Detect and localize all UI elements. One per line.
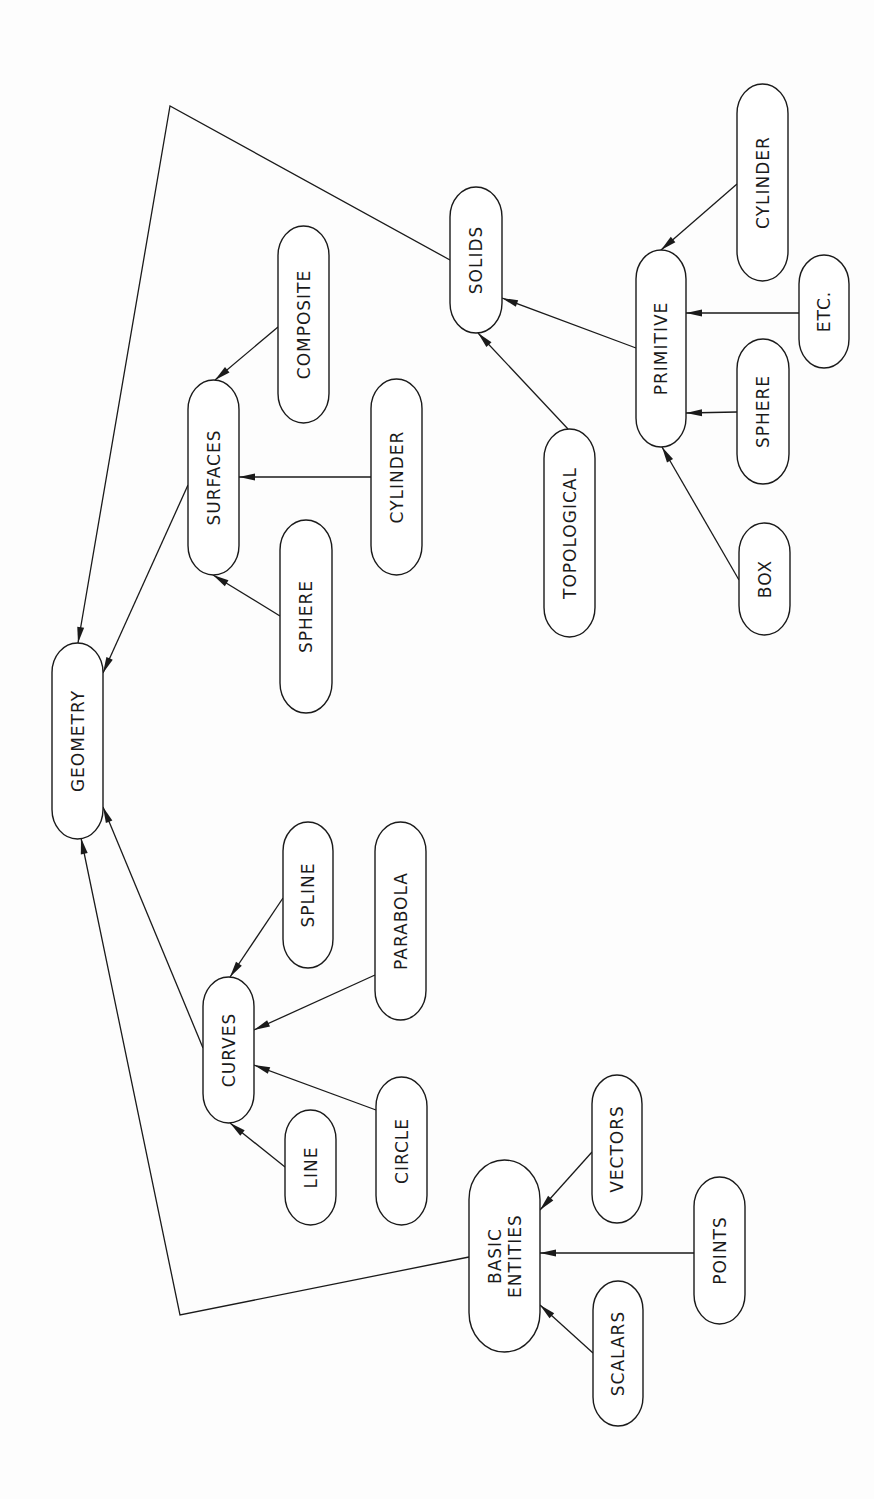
arrowhead-icon <box>230 962 242 977</box>
arrowhead-icon <box>81 838 88 854</box>
node-curves: CURVES <box>203 977 254 1123</box>
edge-topological-to-solids <box>478 333 568 429</box>
node-etc: ETC. <box>799 255 849 368</box>
edge-line <box>103 807 203 1048</box>
arrowhead-icon <box>254 1065 270 1074</box>
node-points: POINTS <box>694 1177 745 1324</box>
node-label: CIRCLE <box>392 1118 412 1184</box>
node-spline: SPLINE <box>283 822 333 968</box>
node-label: POINTS <box>710 1216 730 1285</box>
edge-vectors-to-basic_entities <box>540 1152 592 1210</box>
arrowhead-icon <box>502 298 518 307</box>
edge-primitive-to-solids <box>502 298 636 348</box>
edge-line <box>478 333 568 429</box>
node-line: LINE <box>285 1110 336 1225</box>
node-solids: SOLIDS <box>450 187 502 333</box>
arrowhead-icon <box>239 474 255 481</box>
arrowhead-icon <box>686 310 702 317</box>
arrowhead-icon <box>103 657 113 673</box>
arrowhead-icon <box>540 1250 556 1257</box>
node-surfaces: SURFACES <box>188 380 239 575</box>
node-label: TOPOLOGICAL <box>560 467 580 600</box>
node-circle: CIRCLE <box>376 1077 427 1225</box>
edge-spline-to-curves <box>230 898 283 977</box>
node-label: ETC. <box>814 291 834 332</box>
node-label: VECTORS <box>607 1105 627 1193</box>
edge-line <box>254 1065 376 1110</box>
edge-composite-to-surfaces <box>215 327 278 380</box>
arrowhead-icon <box>686 409 702 416</box>
node-box: BOX <box>739 523 790 635</box>
geometry-hierarchy-diagram: GEOMETRYSURFACESCOMPOSITECYLINDERSPHERES… <box>0 0 874 1499</box>
node-label: COMPOSITE <box>294 270 314 379</box>
node-cylinder-prim: CYLINDER <box>737 84 788 281</box>
node-label: SPLINE <box>298 863 318 928</box>
node-scalars: SCALARS <box>593 1281 643 1426</box>
node-composite: COMPOSITE <box>278 226 329 423</box>
edge-line-to-curves <box>230 1123 285 1167</box>
edge-sphere_prim-to-primitive <box>686 409 737 416</box>
edge-box-to-primitive <box>662 447 739 580</box>
node-topological: TOPOLOGICAL <box>544 429 595 637</box>
node-label: CURVES <box>219 1013 239 1087</box>
node-primitive: PRIMITIVE <box>636 250 686 447</box>
edges-layer <box>77 106 799 1353</box>
node-label: SCALARS <box>608 1311 628 1396</box>
edge-scalars-to-basic_entities <box>540 1305 593 1353</box>
node-label: SPHERE <box>753 375 773 448</box>
node-label: BOX <box>755 560 775 598</box>
edge-parabola-to-curves <box>254 975 375 1030</box>
node-label: SPHERE <box>296 580 316 653</box>
arrowhead-icon <box>254 1020 270 1030</box>
edge-line <box>502 298 636 348</box>
node-label: LINE <box>301 1147 321 1189</box>
node-cylinder-surf: CYLINDER <box>371 379 422 575</box>
edge-points-to-basic_entities <box>540 1250 694 1257</box>
arrowhead-icon <box>103 807 112 823</box>
nodes-layer: GEOMETRYSURFACESCOMPOSITECYLINDERSPHERES… <box>52 84 849 1426</box>
node-sphere-prim: SPHERE <box>737 339 789 484</box>
edge-line <box>103 485 188 673</box>
edge-cylinder_surf-to-surfaces <box>239 474 371 481</box>
arrowhead-icon <box>77 627 84 643</box>
edge-curves-to-geometry <box>103 807 203 1048</box>
node-label: GEOMETRY <box>68 690 88 792</box>
node-label: CYLINDER <box>753 136 773 229</box>
edge-circle-to-curves <box>254 1065 376 1110</box>
edge-cylinder_prim-to-primitive <box>661 184 737 250</box>
arrowhead-icon <box>213 575 228 586</box>
edge-line <box>254 975 375 1030</box>
edge-line <box>662 447 739 580</box>
node-label: SURFACES <box>204 430 224 526</box>
arrowhead-icon <box>230 1123 245 1136</box>
node-sphere-surf: SPHERE <box>280 520 332 713</box>
node-geometry: GEOMETRY <box>52 643 103 839</box>
arrowhead-icon <box>662 447 673 463</box>
node-label: PARABOLA <box>391 872 411 970</box>
edge-surfaces-to-geometry <box>103 485 188 673</box>
node-label: CYLINDER <box>387 431 407 524</box>
edge-sphere_surf-to-surfaces <box>213 575 280 616</box>
node-label: PRIMITIVE <box>651 302 671 396</box>
node-parabola: PARABOLA <box>375 822 426 1020</box>
node-vectors: VECTORS <box>592 1075 642 1223</box>
node-label: SOLIDS <box>466 226 486 295</box>
edge-etc-to-primitive <box>686 310 799 317</box>
node-basic-entities: BASICENTITIES <box>469 1160 540 1352</box>
